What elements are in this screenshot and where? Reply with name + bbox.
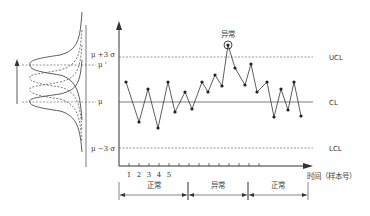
control-chart-diagram: μ +3 σ μ ' μ μ −3 σ 12345 UCL CL LCL 异常 … (0, 0, 370, 216)
label-cl: CL (329, 99, 338, 107)
x-tick-label: 3 (147, 171, 151, 179)
data-point (286, 108, 289, 111)
segment-label: 异常 (211, 181, 225, 190)
data-point (233, 66, 236, 69)
label-lcl: LCL (329, 145, 342, 153)
label-mu-prime: μ ' (98, 61, 107, 69)
y-axis-arrow-icon (116, 21, 122, 30)
data-point (272, 115, 275, 118)
data-point (190, 107, 193, 110)
data-point (249, 62, 252, 65)
label-ucl: UCL (329, 54, 343, 62)
data-point (243, 83, 246, 86)
data-point (279, 87, 282, 90)
segment-label: 正常 (271, 181, 285, 190)
data-point (265, 80, 268, 83)
data-point (292, 80, 295, 83)
data-point (226, 43, 229, 46)
data-point (220, 84, 223, 87)
data-point (206, 90, 209, 93)
data-point (166, 80, 169, 83)
x-axis-label: 时间（样本号） (307, 171, 356, 181)
control-chart: 12345 UCL CL LCL 异常 时间（样本号） 正常异常正常 (116, 21, 356, 200)
data-point (146, 87, 149, 90)
arrow-up-icon (15, 59, 20, 66)
x-axis-arrow-icon (303, 163, 313, 169)
x-tick-label: 2 (137, 171, 141, 179)
label-mu-minus-3sigma: μ −3 σ (91, 145, 115, 153)
data-point (156, 126, 159, 129)
data-point (255, 90, 258, 93)
x-tick-label: 1 (127, 171, 131, 179)
data-points (124, 43, 302, 129)
segment-label: 正常 (147, 181, 161, 190)
label-mu: μ (98, 98, 103, 106)
data-point (137, 120, 140, 123)
distribution-panel: μ +3 σ μ ' μ μ −3 σ (15, 12, 116, 167)
x-tick-label: 4 (157, 171, 162, 179)
label-mu-plus-3sigma: μ +3 σ (91, 51, 115, 59)
data-point (173, 110, 176, 113)
data-point (299, 114, 302, 117)
data-point (183, 90, 186, 93)
anomaly-label: 异常 (221, 30, 235, 39)
data-point (200, 80, 203, 83)
data-point (124, 80, 127, 83)
data-point (213, 73, 216, 76)
x-axis-tick-labels: 12345 (127, 171, 171, 179)
data-series-line (126, 45, 301, 128)
segment-brackets: 正常异常正常 (119, 181, 308, 200)
x-tick-label: 5 (167, 171, 171, 179)
